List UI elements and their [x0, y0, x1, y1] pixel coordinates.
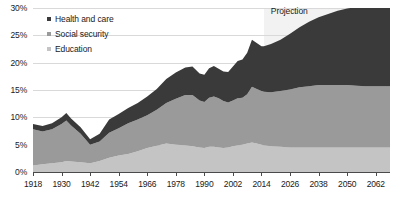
x-axis-tick-label: 2050: [338, 179, 356, 189]
stacked-area-chart: 0%5%10%15%20%25%30% 19181930194219541966…: [0, 0, 395, 202]
legend-item-social-security: Social security: [47, 28, 114, 39]
legend-label-education: Education: [55, 44, 92, 54]
legend-item-education: Education: [47, 43, 114, 54]
x-axis-tick-label: 2026: [281, 179, 299, 189]
x-axis-tick-label: 2002: [224, 179, 242, 189]
y-axis-ticks: 0%5%10%15%20%25%30%: [0, 8, 30, 172]
legend-label-health-and-care: Health and care: [55, 14, 114, 24]
x-axis-tick-label: 1942: [81, 179, 99, 189]
x-axis-ticks: 1918193019421954196619781990200220142026…: [33, 174, 390, 192]
legend-swatch-social-security: [47, 32, 51, 36]
y-axis-tick-label: 15%: [11, 85, 27, 95]
x-axis-tick-label: 1954: [110, 179, 128, 189]
y-axis-tick-label: 20%: [11, 58, 27, 68]
x-axis-tick-label: 1918: [24, 179, 42, 189]
legend-swatch-health-and-care: [47, 17, 51, 21]
x-axis-tick-label: 1990: [195, 179, 213, 189]
x-axis-tick-label: 2062: [367, 179, 385, 189]
legend-item-health-and-care: Health and care: [47, 13, 114, 24]
x-axis-tick-label: 1930: [52, 179, 70, 189]
x-axis-tick-label: 2014: [252, 179, 270, 189]
y-axis-tick-label: 25%: [11, 30, 27, 40]
x-axis-line: [33, 172, 390, 173]
legend-swatch-education: [47, 47, 51, 51]
legend-label-social-security: Social security: [55, 29, 108, 39]
x-axis-tick-label: 1978: [167, 179, 185, 189]
x-axis-tick-label: 1966: [138, 179, 156, 189]
projection-label: Projection: [271, 6, 308, 16]
x-axis-tick-label: 2038: [310, 179, 328, 189]
y-axis-tick-label: 5%: [15, 140, 27, 150]
chart-legend: Health and care Social security Educatio…: [47, 13, 114, 54]
y-axis-tick-label: 10%: [11, 112, 27, 122]
y-axis-tick-label: 0%: [15, 167, 27, 177]
y-axis-tick-label: 30%: [11, 3, 27, 13]
